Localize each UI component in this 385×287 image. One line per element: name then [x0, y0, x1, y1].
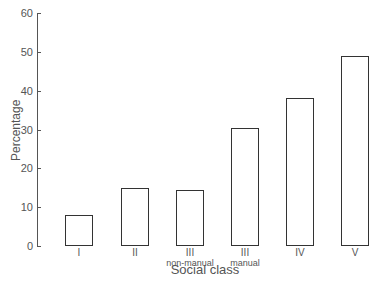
x-label-III-nonmanual: III — [176, 248, 204, 258]
bar-ii — [121, 188, 149, 246]
bar-i — [65, 215, 93, 246]
x-label-V: V — [341, 248, 369, 258]
x-axis-title: Social class — [150, 262, 260, 277]
y-tick-0 — [37, 246, 41, 247]
y-tick-10 — [37, 207, 41, 208]
y-tick-label: 0 — [6, 240, 33, 252]
y-tick-label: 10 — [6, 201, 33, 213]
bar-iii-manual — [231, 128, 259, 246]
y-tick-50 — [37, 52, 41, 53]
y-tick-20 — [37, 168, 41, 169]
x-label-IV: IV — [286, 248, 314, 258]
y-axis-title: Percentage — [9, 101, 23, 161]
y-tick-label: 50 — [6, 46, 33, 58]
y-tick-label: 60 — [6, 7, 33, 19]
y-tick-60 — [37, 13, 41, 14]
bar-iii-non-manual — [176, 190, 204, 246]
y-tick-label: 40 — [6, 85, 33, 97]
x-label-III-manual: III — [231, 248, 259, 258]
x-label-I: I — [65, 248, 93, 258]
y-tick-label: 20 — [6, 162, 33, 174]
bar-iv — [286, 98, 314, 246]
bar-chart: 0 10 20 30 40 50 60 Percentage I II III … — [0, 0, 385, 287]
x-label-II: II — [121, 248, 149, 258]
bar-v — [341, 56, 369, 246]
y-tick-40 — [37, 91, 41, 92]
y-tick-30 — [37, 130, 41, 131]
